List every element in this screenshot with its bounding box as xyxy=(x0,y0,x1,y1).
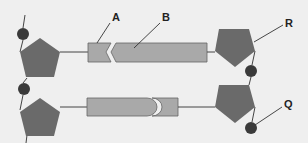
dna-diagram: A B R Q xyxy=(0,0,308,143)
label-q: Q xyxy=(284,98,293,110)
label-b: B xyxy=(162,11,170,23)
phosphate-circle-right-top xyxy=(245,65,257,77)
base-pair-top xyxy=(88,43,207,62)
base-pair-bottom xyxy=(87,98,178,116)
phosphate-circle-right-bottom xyxy=(245,122,257,134)
phosphate-circle-left-bottom xyxy=(18,83,30,95)
base-left-bottom xyxy=(87,98,157,116)
base-right-top xyxy=(111,43,207,62)
phosphate-circle-left-top xyxy=(17,28,29,40)
label-r: R xyxy=(285,17,293,29)
label-a: A xyxy=(112,11,120,23)
